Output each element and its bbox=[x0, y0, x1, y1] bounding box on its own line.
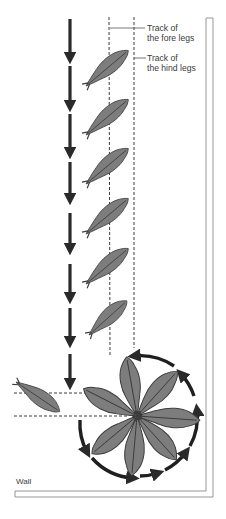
lizard-icon bbox=[79, 192, 133, 241]
straight-path-lizards bbox=[79, 44, 133, 341]
arc-arrow-icon bbox=[140, 473, 158, 476]
lizard-icon bbox=[10, 374, 64, 417]
arc-arrow-icon bbox=[181, 374, 194, 396]
lizard-icon bbox=[79, 44, 133, 93]
arc-arrow-icon bbox=[134, 356, 174, 366]
lizard-icon bbox=[79, 93, 133, 142]
label-line: Track of bbox=[147, 53, 196, 63]
fore-legs-track-label: Track of the fore legs bbox=[147, 23, 194, 43]
label-line: the hind legs bbox=[147, 63, 196, 73]
diagram-canvas: Track of the fore legs Track of the hind… bbox=[0, 0, 226, 519]
entering-lizard bbox=[10, 374, 64, 417]
lizard-icon bbox=[82, 295, 132, 342]
hind-legs-track-label: Track of the hind legs bbox=[147, 53, 196, 73]
arc-arrow-icon bbox=[80, 420, 87, 452]
label-line: the fore legs bbox=[147, 33, 194, 43]
lizard-icon bbox=[79, 242, 133, 291]
wall-label: Wall bbox=[16, 477, 31, 487]
diagram-svg bbox=[0, 0, 226, 519]
label-line: Track of bbox=[147, 23, 194, 33]
lizard-icon bbox=[79, 142, 133, 191]
